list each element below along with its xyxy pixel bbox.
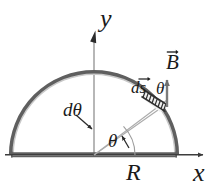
y-axis-arrowhead-icon	[90, 31, 96, 44]
ds-element-label: ds	[131, 79, 146, 96]
ds-vector-arrow-icon	[138, 75, 151, 82]
y-axis	[90, 31, 96, 157]
y-axis-label: y	[100, 6, 112, 32]
b-field-label: B	[166, 52, 179, 73]
theta-origin-label: θ	[108, 131, 117, 150]
b-field-label-text: B	[166, 52, 179, 73]
d-theta-label: dθ	[63, 100, 82, 119]
theta-ds-label: θ	[156, 80, 164, 97]
theta-leader-arrow	[122, 136, 129, 148]
physics-diagram-semicircular-loop: y x R dθ θ θ B ds	[0, 0, 218, 194]
radius-label: R	[126, 160, 141, 184]
x-axis-label: x	[193, 160, 205, 186]
theta-leader-line	[122, 136, 129, 148]
radial-line-inner	[94, 110, 158, 155]
b-vector-arrow-icon	[166, 48, 179, 55]
